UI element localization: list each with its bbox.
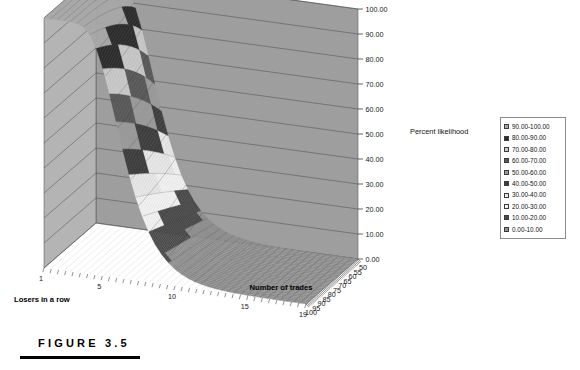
z-tick-label: 40.00	[366, 155, 384, 164]
y-tick-mark	[130, 280, 131, 284]
legend-item: 80.00-90.00	[504, 132, 562, 143]
chart-svg: 0.0010.0020.0030.0040.0050.0060.0070.008…	[0, 0, 470, 320]
y-tick-mark	[196, 289, 197, 293]
y-tick-mark	[217, 292, 218, 296]
z-tick-label: 20.00	[366, 205, 384, 214]
y-tick-mark	[210, 291, 211, 295]
legend-item: 20.00-30.00	[504, 201, 562, 212]
y-axis-title: Losers in a row	[14, 295, 70, 304]
legend-item: 30.00-40.00	[504, 189, 562, 200]
y-tick-mark	[247, 296, 248, 300]
y-tick-mark	[43, 268, 44, 272]
legend-swatch	[504, 170, 509, 175]
y-tick-label: 15	[241, 302, 249, 311]
figure-caption: FIGURE 3.5	[38, 337, 130, 349]
floor-gridline	[90, 229, 142, 274]
surface-chart: 0.0010.0020.0030.0040.0050.0060.0070.008…	[0, 0, 470, 320]
legend-label: 30.00-40.00	[512, 189, 546, 200]
legend: 90.00-100.0080.00-90.0070.00-80.0060.00-…	[500, 117, 566, 239]
legend-swatch	[504, 181, 509, 186]
y-tick-mark	[203, 290, 204, 294]
legend-label: 70.00-80.00	[512, 144, 546, 155]
z-axis-title: Percent likelihood	[410, 127, 468, 136]
legend-label: 0.00-10.00	[512, 224, 543, 235]
y-tick-mark	[298, 303, 299, 307]
legend-swatch	[504, 147, 509, 152]
y-tick-mark	[276, 300, 277, 304]
y-tick-mark	[94, 275, 95, 279]
y-tick-mark	[167, 285, 168, 289]
legend-swatch	[504, 136, 509, 141]
legend-item: 0.00-10.00	[504, 224, 562, 235]
y-tick-mark	[239, 295, 240, 299]
legend-label: 40.00-50.00	[512, 178, 546, 189]
y-tick-mark	[268, 299, 269, 303]
y-tick-mark	[57, 270, 58, 274]
z-tick-label: 80.00	[366, 55, 384, 64]
legend-label: 50.00-60.00	[512, 167, 546, 178]
y-tick-mark	[86, 274, 87, 278]
y-tick-mark	[137, 281, 138, 285]
legend-item: 90.00-100.00	[504, 121, 562, 132]
x-axis-title: Number of trades	[250, 283, 313, 292]
y-tick-mark	[254, 297, 255, 301]
floor-gridline	[83, 228, 135, 273]
legend-swatch	[504, 124, 509, 129]
legend-item: 10.00-20.00	[504, 212, 562, 223]
y-tick-label: 19	[299, 310, 307, 319]
z-axis: 0.0010.0020.0030.0040.0050.0060.0070.008…	[358, 5, 387, 264]
y-tick-label: 5	[97, 282, 101, 291]
y-tick-mark	[283, 301, 284, 305]
y-tick-label: 1	[39, 274, 43, 283]
floor-gridline	[96, 230, 148, 275]
legend-item: 60.00-70.00	[504, 155, 562, 166]
z-tick-label: 100.00	[366, 5, 388, 14]
floor-gridline	[103, 231, 155, 276]
y-tick-mark	[65, 271, 66, 275]
y-tick-mark	[159, 284, 160, 288]
y-tick-mark	[79, 273, 80, 277]
z-tick-label: 50.00	[366, 130, 384, 139]
y-tick-mark	[261, 298, 262, 302]
legend-label: 20.00-30.00	[512, 201, 546, 212]
y-tick-mark	[116, 278, 117, 282]
legend-label: 80.00-90.00	[512, 132, 546, 143]
y-tick-mark	[152, 283, 153, 287]
legend-swatch	[504, 193, 509, 198]
z-tick-label: 90.00	[366, 30, 384, 39]
legend-label: 90.00-100.00	[512, 121, 550, 132]
legend-swatch	[504, 158, 509, 163]
left-wall	[44, 0, 96, 268]
y-tick-mark	[123, 279, 124, 283]
y-tick-mark	[101, 276, 102, 280]
z-tick-label: 0.00	[366, 255, 380, 264]
legend-item: 70.00-80.00	[504, 144, 562, 155]
y-tick-mark	[181, 287, 182, 291]
figure-rule-divider	[20, 356, 140, 359]
legend-swatch	[504, 227, 509, 232]
legend-label: 10.00-20.00	[512, 212, 546, 223]
z-tick-label: 10.00	[366, 230, 384, 239]
y-tick-mark	[145, 282, 146, 286]
z-tick-label: 70.00	[366, 80, 384, 89]
y-tick-mark	[188, 288, 189, 292]
y-tick-mark	[108, 277, 109, 281]
y-tick-mark	[72, 272, 73, 276]
floor-gridline	[116, 233, 168, 278]
y-tick-mark	[290, 302, 291, 306]
y-tick-mark	[225, 293, 226, 297]
y-tick-mark	[50, 269, 51, 273]
legend-item: 40.00-50.00	[504, 178, 562, 189]
y-tick-mark	[232, 294, 233, 298]
legend-swatch	[504, 204, 509, 209]
y-tick-label: 10	[168, 292, 176, 301]
z-tick-label: 60.00	[366, 105, 384, 114]
floor-gridline	[77, 228, 129, 273]
z-tick-label: 30.00	[366, 180, 384, 189]
floor-gridline	[110, 232, 162, 277]
legend-item: 50.00-60.00	[504, 167, 562, 178]
legend-label: 60.00-70.00	[512, 155, 546, 166]
y-tick-mark	[174, 286, 175, 290]
legend-swatch	[504, 215, 509, 220]
figure-container: 0.0010.0020.0030.0040.0050.0060.0070.008…	[0, 0, 580, 370]
